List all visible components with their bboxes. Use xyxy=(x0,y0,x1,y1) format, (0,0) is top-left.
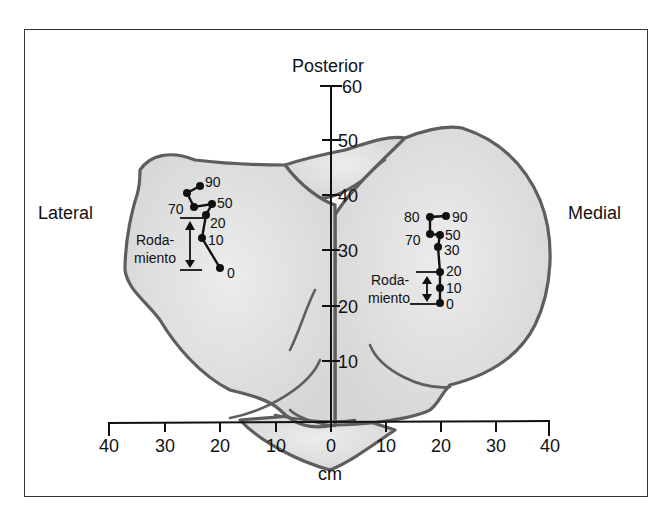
x-tick: 30 xyxy=(155,437,175,455)
medial-point-label-10: 10 xyxy=(446,281,462,295)
posterior-label: Posterior xyxy=(292,57,364,75)
y-tick-10: 10 xyxy=(338,353,358,371)
lateral-label: Lateral xyxy=(38,204,93,222)
x-tick: 20 xyxy=(431,437,451,455)
medial-point-label-0: 0 xyxy=(446,297,454,311)
lateral-point-label-20: 20 xyxy=(210,216,226,230)
medial-point-label-70: 70 xyxy=(405,233,421,247)
x-unit-label: cm xyxy=(318,465,342,483)
y-tick-30: 30 xyxy=(338,242,358,260)
medial-point-label-80: 80 xyxy=(404,210,420,224)
medial-point-label-20: 20 xyxy=(446,264,462,278)
y-tick-40: 40 xyxy=(338,187,358,205)
x-tick: 40 xyxy=(540,437,560,455)
x-tick: 10 xyxy=(266,437,286,455)
lateral-point-label-10: 10 xyxy=(208,233,224,247)
tibial-plateau-diagram: Posterior Lateral Medial cm 60 50 40 30 … xyxy=(0,0,661,519)
lateral-rolling-label-line1: Roda- xyxy=(136,233,174,247)
lateral-point-label-50: 50 xyxy=(217,196,233,210)
medial-point-label-50: 50 xyxy=(445,228,461,242)
x-tick: 20 xyxy=(210,437,230,455)
x-tick: 0 xyxy=(326,437,336,455)
medial-rolling-label-line1: Roda- xyxy=(371,273,409,287)
y-tick-20: 20 xyxy=(338,298,358,316)
medial-point-label-30: 30 xyxy=(444,243,460,257)
x-tick: 40 xyxy=(99,437,119,455)
medial-rolling-label-line2: miento xyxy=(368,291,410,305)
medial-label: Medial xyxy=(568,204,621,222)
x-tick: 10 xyxy=(376,437,396,455)
lateral-point-label-90: 90 xyxy=(205,175,221,189)
lateral-point-label-70: 70 xyxy=(168,202,184,216)
lateral-rolling-label-line2: miento xyxy=(134,251,176,265)
y-tick-50: 50 xyxy=(338,132,358,150)
lateral-point-label-0: 0 xyxy=(227,266,235,280)
y-tick-60: 60 xyxy=(342,78,362,96)
medial-point-label-90: 90 xyxy=(452,210,468,224)
x-tick: 30 xyxy=(486,437,506,455)
